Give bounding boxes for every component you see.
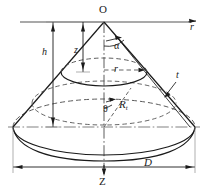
label-tool-radius: Rt	[119, 99, 128, 110]
label-origin: O	[99, 4, 107, 15]
cone-slant-left	[13, 22, 104, 127]
height-dimension-group	[46, 22, 104, 127]
label-thickness: t	[176, 70, 179, 80]
label-radius: r	[114, 64, 118, 74]
label-height: h	[42, 47, 47, 57]
depth-arrow-top	[81, 24, 85, 32]
diameter-arrow-left	[15, 165, 23, 169]
cone-geometry-figure: O r Z h z α r t θ Rt D	[0, 0, 208, 193]
theta-arrowhead	[109, 97, 116, 101]
depth-arrow-bottom	[81, 63, 85, 71]
label-half-angle: α	[114, 41, 119, 51]
label-theta: θ	[103, 104, 108, 114]
thickness-leader-group	[164, 82, 176, 98]
label-axial-axis: Z	[99, 176, 106, 187]
label-tool-radius-base: R	[119, 98, 126, 110]
diameter-arrow-right	[186, 165, 194, 169]
label-tool-radius-subscript: t	[126, 104, 128, 111]
height-arrow-bottom	[51, 118, 55, 126]
radial-axis-group	[20, 19, 196, 23]
label-depth: z	[74, 45, 78, 55]
cone-diagram-canvas	[0, 0, 208, 193]
cone-inner-wall-right	[115, 35, 190, 127]
height-arrow-top	[51, 24, 55, 32]
depth-dimension-group	[76, 22, 90, 72]
label-diameter: D	[144, 157, 152, 168]
label-radial-axis: r	[190, 22, 194, 32]
